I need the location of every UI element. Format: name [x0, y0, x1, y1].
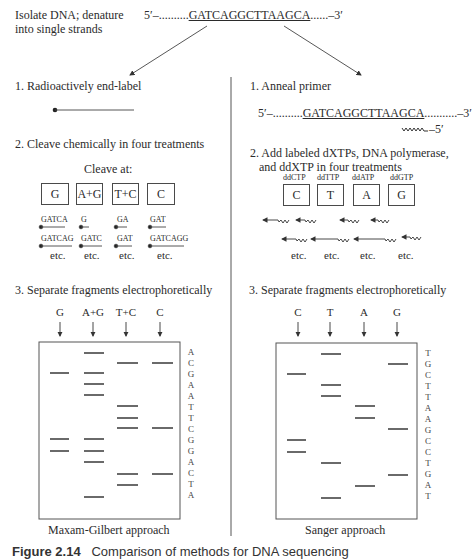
caption-text: Comparison of methods for DNA sequencing: [91, 544, 348, 559]
base: C: [186, 358, 196, 368]
base: A: [186, 490, 196, 500]
base: A: [186, 380, 196, 390]
caption-label: Figure 2.14: [12, 544, 81, 559]
base: T: [423, 491, 433, 501]
fragment-label: GATCAG: [41, 234, 73, 243]
base: G: [186, 446, 196, 456]
sanger-step3: 3. Separate fragments electrophoreticall…: [249, 283, 446, 298]
fragment-label: GA: [117, 215, 129, 224]
sanger-fragments-row2: [282, 237, 421, 242]
base: A: [186, 457, 196, 467]
cleave-at-label: Cleave at:: [84, 162, 132, 177]
sanger-step2-line1: 2. Add labeled dXTPs, DNA polymerase,: [250, 146, 449, 161]
treatment-box-t: T: [317, 184, 344, 206]
base: A: [423, 414, 433, 424]
base: T: [423, 381, 433, 391]
etc-label: etc.: [84, 249, 100, 261]
template-prefix: 5′–..........: [258, 106, 303, 120]
fragment-label: G: [81, 215, 87, 224]
dd-label: ddCTP: [283, 173, 306, 182]
fragment-label: GAT: [150, 215, 166, 224]
dd-label: ddATP: [352, 173, 374, 182]
intro-line-1: Isolate DNA; denature: [15, 8, 124, 23]
etc-label: etc.: [360, 249, 376, 261]
maxam-step1: 1. Radioactively end-label: [15, 79, 141, 94]
lane-label: A: [349, 306, 379, 318]
base: T: [423, 458, 433, 468]
lane-label: G: [45, 306, 75, 318]
lane-label: T+C: [111, 306, 141, 318]
sanger-bands: [287, 354, 408, 498]
dna-strand: 5′–..........GATCAGGCTTAAGCA......–3′: [144, 8, 343, 23]
intro-line-2: into single strands: [15, 22, 102, 37]
etc-label: etc.: [157, 249, 173, 261]
base: A: [186, 347, 196, 357]
maxam-gel: [39, 342, 180, 519]
treatment-box-g: G: [388, 184, 415, 206]
template-suffix: ...........–3′: [424, 106, 472, 120]
primer-end-label: –5′: [429, 122, 444, 137]
primer-squiggle: [402, 128, 428, 131]
maxam-step3: 3. Separate fragments electrophoreticall…: [15, 283, 212, 298]
dd-label: ddTTP: [317, 173, 339, 182]
treatment-box-c: C: [283, 184, 310, 206]
treatment-box-a: A: [353, 184, 380, 206]
fragment-label: GAT: [117, 234, 133, 243]
base: G: [423, 359, 433, 369]
maxam-fragments-row2: [39, 244, 184, 248]
base: G: [423, 425, 433, 435]
sanger-gel: [276, 343, 417, 519]
lane-label: G: [382, 306, 412, 318]
base: T: [186, 479, 196, 489]
lane-label: C: [145, 306, 175, 318]
sanger-approach-label: Sanger approach: [305, 523, 385, 538]
lane-label: A+G: [78, 306, 108, 318]
strand-suffix: ......–3′: [310, 8, 343, 22]
etc-label: etc.: [291, 249, 307, 261]
maxam-approach-label: Maxam-Gilbert approach: [48, 523, 170, 538]
base: C: [186, 468, 196, 478]
sanger-step1: 1. Anneal primer: [250, 79, 331, 94]
strand-sequence: GATCAGGCTTAAGCA: [189, 8, 311, 22]
base: C: [423, 447, 433, 457]
base: T: [186, 402, 196, 412]
base: A: [423, 480, 433, 490]
sanger-lane-arrows: [298, 322, 397, 336]
treatment-box-c: C: [147, 183, 175, 205]
fragment-label: GATCAGG: [150, 234, 188, 243]
treatment-box-t-c: T+C: [112, 183, 139, 205]
treatment-box-g: G: [41, 183, 69, 205]
base: A: [423, 403, 433, 413]
dd-label: ddGTP: [390, 173, 413, 182]
fragment-label: GATC: [81, 234, 102, 243]
base: C: [423, 370, 433, 380]
base: G: [423, 469, 433, 479]
template-sequence: GATCAGGCTTAAGCA: [303, 106, 425, 120]
base: T: [423, 348, 433, 358]
etc-label: etc.: [398, 249, 414, 261]
maxam-bands: [50, 353, 173, 497]
base: A: [186, 391, 196, 401]
strand-prefix: 5′–..........: [144, 8, 189, 22]
maxam-step2: 2. Cleave chemically in four treatments: [15, 137, 204, 152]
sanger-fragments-row1: [263, 220, 389, 223]
base: C: [186, 424, 196, 434]
arrow-to-sanger: [284, 26, 361, 75]
lane-label: C: [283, 306, 313, 318]
treatment-box-a-g: A+G: [76, 183, 103, 205]
sanger-template: 5′–..........GATCAGGCTTAAGCA...........–…: [258, 106, 472, 121]
base: C: [423, 436, 433, 446]
etc-label: etc.: [324, 249, 340, 261]
base: T: [186, 413, 196, 423]
fragment-label: GATCA: [41, 215, 68, 224]
figure-caption: Figure 2.14 Comparison of methods for DN…: [12, 544, 349, 559]
etc-label: etc.: [119, 249, 135, 261]
lane-label: T: [315, 306, 345, 318]
etc-label: etc.: [50, 249, 66, 261]
arrow-to-maxam: [130, 26, 207, 75]
maxam-fragments-row1: [39, 225, 166, 229]
base: T: [423, 392, 433, 402]
base: G: [186, 369, 196, 379]
maxam-lane-arrows: [60, 322, 160, 336]
base: G: [186, 435, 196, 445]
